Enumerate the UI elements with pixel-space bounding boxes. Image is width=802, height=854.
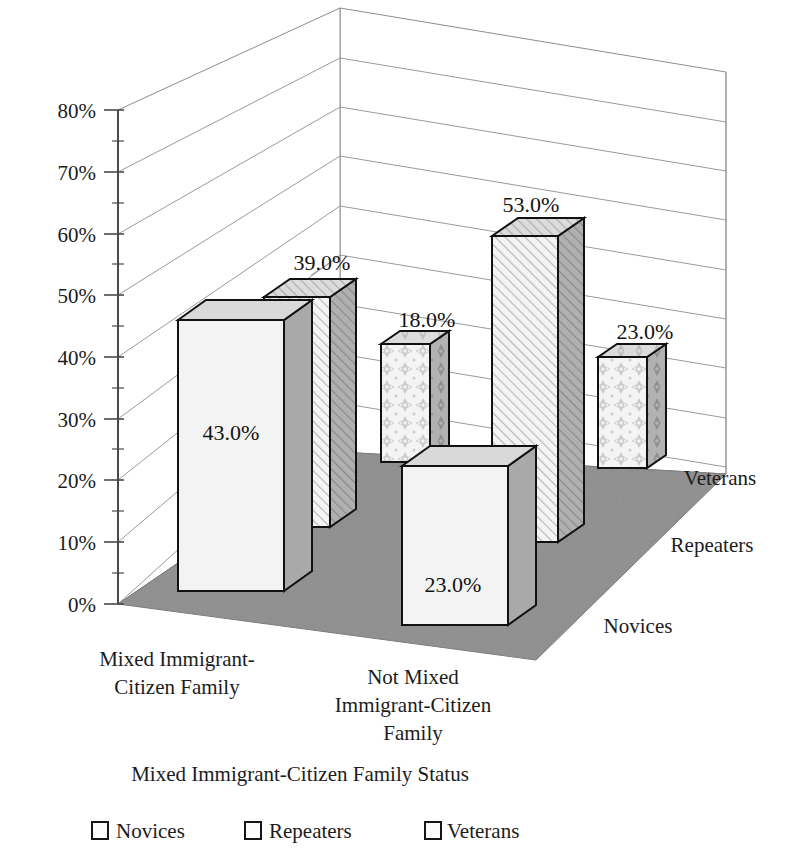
bar-front-face	[381, 344, 430, 462]
category-label-line: Citizen Family	[114, 675, 240, 699]
data-label: 53.0%	[503, 192, 560, 217]
bar-side-face	[558, 218, 584, 542]
y-tick-label: 0%	[68, 593, 96, 617]
y-tick-label: 10%	[58, 531, 97, 555]
category-label-line: Mixed Immigrant-	[99, 647, 255, 671]
depth-axis-label-novices: Novices	[604, 614, 673, 638]
bar-novices-mixed[interactable]	[178, 300, 312, 591]
chart-container: 80% 70% 60% 50% 40% 30% 20% 10% 0%	[0, 0, 802, 854]
y-tick-label: 60%	[58, 223, 97, 247]
category-label-line: Not Mixed	[367, 665, 459, 689]
data-label: 43.0%	[203, 420, 260, 445]
data-label: 23.0%	[617, 319, 674, 344]
bar-front-face	[402, 466, 508, 625]
y-tick-label: 70%	[58, 161, 97, 185]
y-tick-label: 20%	[58, 469, 97, 493]
legend: Novices Repeaters Veterans	[92, 819, 519, 843]
category-label-line: Family	[383, 721, 443, 745]
legend-item-veterans[interactable]: Veterans	[425, 819, 519, 843]
data-label: 23.0%	[425, 572, 482, 597]
x-axis-title: Mixed Immigrant-Citizen Family Status	[131, 762, 469, 786]
legend-swatch-icon	[92, 822, 108, 839]
bar-novices-notmixed[interactable]	[402, 446, 536, 625]
legend-item-repeaters[interactable]: Repeaters	[245, 819, 352, 843]
data-label: 39.0%	[294, 250, 351, 275]
category-labels: Mixed Immigrant- Citizen Family Not Mixe…	[99, 647, 492, 745]
legend-label: Repeaters	[269, 819, 352, 843]
category-label-line: Immigrant-Citizen	[335, 693, 492, 717]
bar-side-face	[430, 331, 449, 462]
y-axis-tick-labels: 80% 70% 60% 50% 40% 30% 20% 10% 0%	[58, 99, 97, 617]
depth-axis-label-veterans: Veterans	[684, 466, 756, 490]
y-tick-label: 80%	[58, 99, 97, 123]
three-d-bar-chart: 80% 70% 60% 50% 40% 30% 20% 10% 0%	[0, 0, 802, 854]
depth-axis-label-repeaters: Repeaters	[671, 533, 754, 557]
bar-front-face	[178, 320, 284, 591]
y-tick-label: 50%	[58, 284, 97, 308]
data-label: 18.0%	[399, 307, 456, 332]
legend-swatch-icon	[245, 822, 261, 839]
bar-side-face	[330, 279, 356, 527]
bar-side-face	[508, 446, 536, 625]
bar-veterans-mixed[interactable]	[381, 331, 449, 462]
legend-item-novices[interactable]: Novices	[92, 819, 185, 843]
legend-label: Veterans	[447, 819, 519, 843]
bar-side-face	[647, 344, 666, 468]
bar-front-face	[598, 357, 647, 468]
y-tick-label: 30%	[58, 408, 97, 432]
bar-veterans-notmixed[interactable]	[598, 344, 666, 468]
bar-side-face	[284, 300, 312, 591]
legend-label: Novices	[116, 819, 185, 843]
legend-swatch-icon	[425, 822, 441, 839]
y-tick-label: 40%	[58, 346, 97, 370]
